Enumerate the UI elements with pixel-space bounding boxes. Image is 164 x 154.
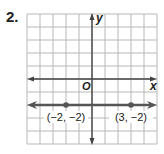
x-axis-left-arrow-icon	[27, 77, 34, 82]
origin-label: O	[82, 80, 91, 92]
point-label: (3, −2)	[115, 111, 147, 123]
x-axis-label: x	[149, 79, 158, 93]
data-point	[63, 102, 69, 108]
point-label: (−2, −2)	[47, 111, 86, 123]
axes	[27, 13, 157, 145]
labels: yxO	[82, 11, 158, 93]
coordinate-plane: (−2, −2)(3, −2) yxO	[0, 0, 164, 154]
y-axis-label: y	[95, 11, 104, 25]
data-point	[128, 102, 134, 108]
